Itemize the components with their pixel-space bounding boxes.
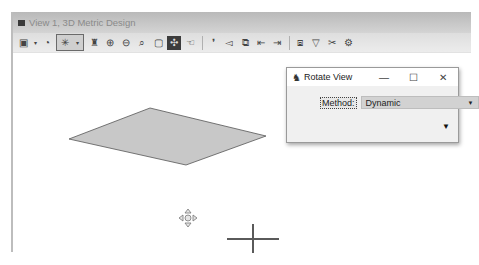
chevron-down-icon: ▼ [468,100,474,106]
rotate-tool-icon: ♞ [292,72,301,83]
method-row: Method: Dynamic ▼ [320,96,479,109]
method-select[interactable]: Dynamic ▼ [361,96,479,109]
view-forward-icon[interactable]: ⇥ [270,36,284,50]
toolbar-separator [202,36,203,50]
zoom-out-icon[interactable]: ⊖ [119,36,133,50]
maximize-button[interactable]: ☐ [402,68,424,86]
clip-mask-icon[interactable]: ✂ [325,36,339,50]
view-attributes-icon[interactable]: ◔ [40,36,54,50]
dialog-titlebar[interactable]: ♞ Rotate View — ☐ ✕ [287,68,458,86]
view-window-icon [18,20,25,26]
method-label: Method: [320,97,357,109]
clip-volume-icon[interactable]: ▽ [309,36,323,50]
minimize-button[interactable]: — [373,68,395,86]
lighting-dropdown[interactable]: ✳ ▾ [56,34,84,51]
view-display-mode-icon[interactable]: ▣ [16,36,30,50]
view-back-icon[interactable]: ⇤ [254,36,268,50]
view-title: View 1, 3D Metric Design [29,17,135,28]
walk-icon[interactable]: ❜ [206,36,220,50]
view-previous-icon[interactable]: ⧉ [238,36,252,50]
method-value: Dynamic [366,98,401,108]
dialog-title: Rotate View [304,72,352,82]
view-center-crosshair [227,224,279,253]
rotate-cursor-icon [179,209,197,227]
zoom-in-icon[interactable]: ⊕ [103,36,117,50]
view-toolbar: ▣ ▾ ◔ ✳ ▾ ♜ ⊕ ⊖ ⌕ ▢ ✣ ☜ ❜ ◅ ⧉ ⇤ ⇥ ⧈ ▽ ✂ … [13,33,471,53]
copy-view-icon[interactable]: ⧈ [293,36,307,50]
view-titlebar[interactable]: View 1, 3D Metric Design [13,12,471,33]
expand-dialog-icon[interactable]: ▼ [442,122,450,131]
rotate-view-icon[interactable]: ✣ [167,36,181,50]
close-button[interactable]: ✕ [432,68,454,86]
camera-icon[interactable]: ◅ [222,36,236,50]
update-view-brush-icon[interactable]: ♜ [87,36,101,50]
rotate-view-dialog[interactable]: ♞ Rotate View — ☐ ✕ Method: Dynamic ▼ ▼ [286,67,459,143]
dropdown-arrow-icon[interactable]: ▾ [32,36,38,50]
pan-view-icon[interactable]: ☜ [183,36,197,50]
rectangle-plane-element[interactable] [69,108,266,165]
dropdown-arrow-icon[interactable]: ▾ [74,36,80,50]
view-settings-icon[interactable]: ⚙ [341,36,355,50]
window-area-icon[interactable]: ⌕ [135,36,149,50]
fit-view-icon[interactable]: ▢ [151,36,165,50]
lighting-icon[interactable]: ✳ [58,36,72,50]
toolbar-separator [289,36,290,50]
